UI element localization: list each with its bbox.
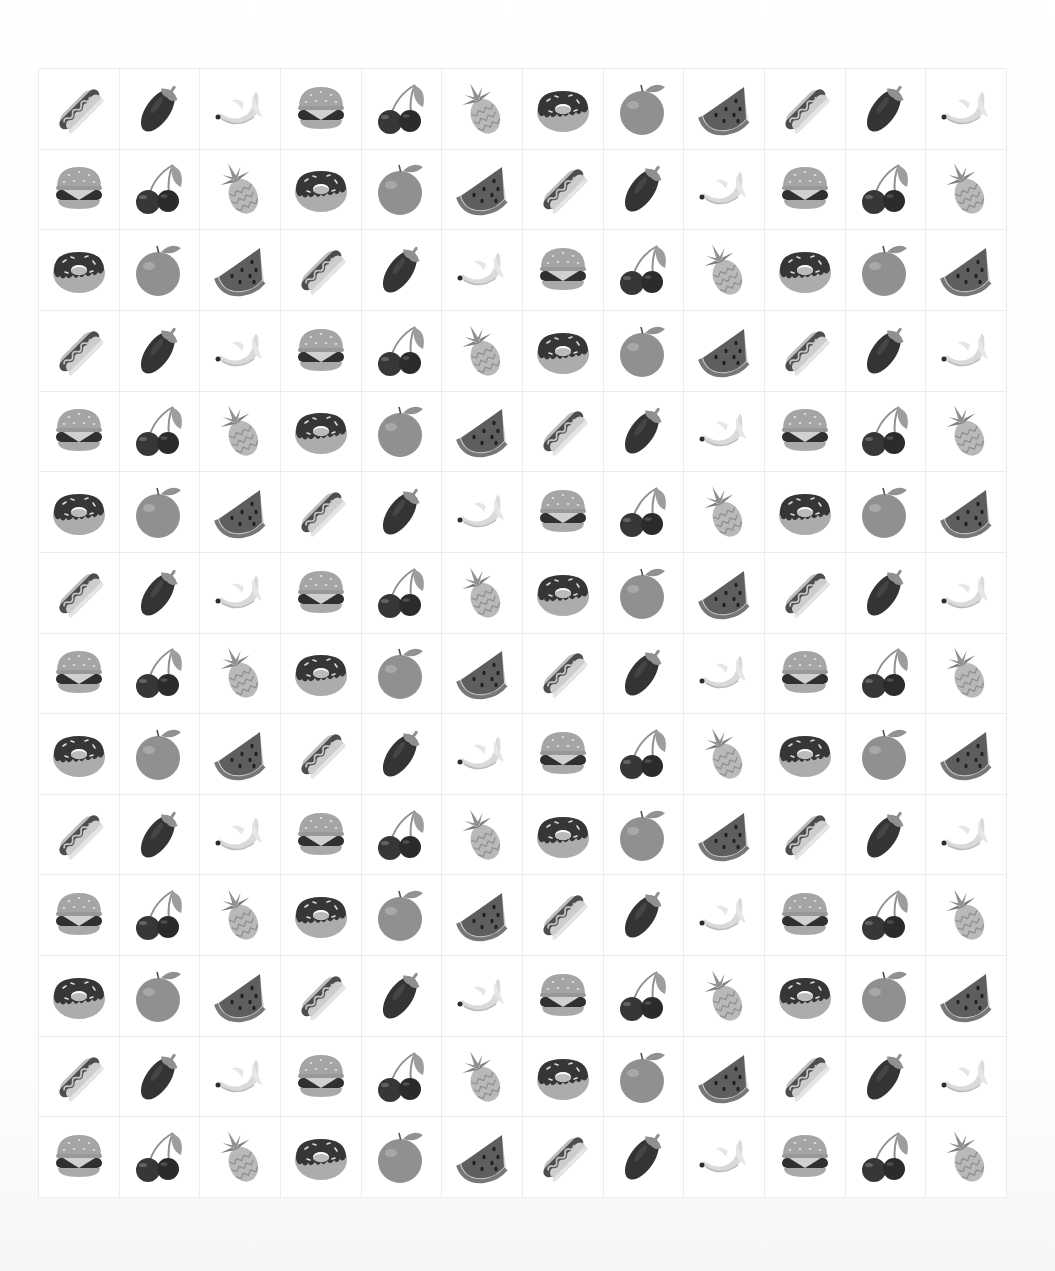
grid-cell[interactable]: burger (523, 472, 604, 553)
grid-cell[interactable]: banana (684, 392, 765, 473)
grid-cell[interactable]: banana (926, 311, 1007, 392)
grid-cell[interactable]: watermelon (442, 150, 523, 231)
grid-cell[interactable]: pineapple (684, 472, 765, 553)
grid-cell[interactable]: eggplant (846, 795, 927, 876)
grid-cell[interactable]: eggplant (604, 150, 685, 231)
grid-cell[interactable]: watermelon (926, 714, 1007, 795)
grid-cell[interactable]: burger (281, 553, 362, 634)
grid-cell[interactable]: banana (684, 634, 765, 715)
grid-cell[interactable]: hotdog (765, 553, 846, 634)
grid-cell[interactable]: pineapple (442, 553, 523, 634)
grid-cell[interactable]: hotdog (765, 311, 846, 392)
grid-cell[interactable]: orange (604, 795, 685, 876)
grid-cell[interactable]: orange (846, 956, 927, 1037)
grid-cell[interactable]: banana (200, 553, 281, 634)
grid-cell[interactable]: orange (120, 472, 201, 553)
grid-cell[interactable]: eggplant (362, 230, 443, 311)
grid-cell[interactable]: watermelon (684, 1037, 765, 1118)
grid-cell[interactable]: watermelon (442, 392, 523, 473)
grid-cell[interactable]: eggplant (846, 311, 927, 392)
grid-cell[interactable]: banana (684, 1117, 765, 1198)
grid-cell[interactable]: orange (362, 875, 443, 956)
grid-cell[interactable]: banana (926, 69, 1007, 150)
grid-cell[interactable]: donut (39, 714, 120, 795)
grid-cell[interactable]: hotdog (281, 230, 362, 311)
grid-cell[interactable]: hotdog (281, 956, 362, 1037)
grid-cell[interactable]: cherries (604, 472, 685, 553)
grid-cell[interactable]: watermelon (442, 1117, 523, 1198)
grid-cell[interactable]: eggplant (604, 392, 685, 473)
grid-cell[interactable]: banana (926, 1037, 1007, 1118)
grid-cell[interactable]: orange (604, 1037, 685, 1118)
grid-cell[interactable]: hotdog (765, 1037, 846, 1118)
grid-cell[interactable]: donut (523, 311, 604, 392)
grid-cell[interactable]: pineapple (926, 1117, 1007, 1198)
grid-cell[interactable]: orange (120, 714, 201, 795)
grid-cell[interactable]: hotdog (523, 875, 604, 956)
grid-cell[interactable]: burger (281, 311, 362, 392)
grid-cell[interactable]: hotdog (523, 634, 604, 715)
grid-cell[interactable]: burger (523, 956, 604, 1037)
grid-cell[interactable]: cherries (120, 392, 201, 473)
grid-cell[interactable]: cherries (120, 150, 201, 231)
grid-cell[interactable]: banana (442, 956, 523, 1037)
grid-cell[interactable]: banana (200, 311, 281, 392)
grid-cell[interactable]: donut (523, 1037, 604, 1118)
grid-cell[interactable]: hotdog (523, 1117, 604, 1198)
grid-cell[interactable]: eggplant (604, 875, 685, 956)
grid-cell[interactable]: pineapple (200, 875, 281, 956)
grid-cell[interactable]: orange (604, 553, 685, 634)
grid-cell[interactable]: orange (604, 69, 685, 150)
grid-cell[interactable]: donut (523, 69, 604, 150)
grid-cell[interactable]: cherries (120, 1117, 201, 1198)
grid-cell[interactable]: donut (39, 230, 120, 311)
grid-cell[interactable]: cherries (362, 795, 443, 876)
grid-cell[interactable]: banana (926, 553, 1007, 634)
grid-cell[interactable]: donut (765, 230, 846, 311)
grid-cell[interactable]: eggplant (120, 69, 201, 150)
grid-cell[interactable]: donut (39, 956, 120, 1037)
grid-cell[interactable]: hotdog (39, 795, 120, 876)
grid-cell[interactable]: eggplant (120, 553, 201, 634)
grid-cell[interactable]: donut (765, 472, 846, 553)
grid-cell[interactable]: pineapple (200, 1117, 281, 1198)
grid-cell[interactable]: eggplant (362, 472, 443, 553)
grid-cell[interactable]: pineapple (926, 392, 1007, 473)
grid-cell[interactable]: pineapple (200, 634, 281, 715)
grid-cell[interactable]: eggplant (604, 634, 685, 715)
grid-cell[interactable]: watermelon (926, 230, 1007, 311)
grid-cell[interactable]: pineapple (684, 230, 765, 311)
grid-cell[interactable]: cherries (846, 150, 927, 231)
grid-cell[interactable]: orange (120, 956, 201, 1037)
grid-cell[interactable]: eggplant (846, 69, 927, 150)
grid-cell[interactable]: hotdog (523, 150, 604, 231)
grid-cell[interactable]: watermelon (442, 875, 523, 956)
grid-cell[interactable]: orange (604, 311, 685, 392)
grid-cell[interactable]: cherries (604, 230, 685, 311)
grid-cell[interactable]: eggplant (120, 1037, 201, 1118)
grid-cell[interactable]: pineapple (442, 1037, 523, 1118)
grid-cell[interactable]: pineapple (442, 69, 523, 150)
grid-cell[interactable]: cherries (604, 714, 685, 795)
grid-cell[interactable]: hotdog (39, 1037, 120, 1118)
grid-cell[interactable]: burger (281, 69, 362, 150)
grid-cell[interactable]: watermelon (200, 472, 281, 553)
grid-cell[interactable]: eggplant (120, 795, 201, 876)
grid-cell[interactable]: hotdog (523, 392, 604, 473)
grid-cell[interactable]: hotdog (765, 69, 846, 150)
grid-cell[interactable]: pineapple (926, 875, 1007, 956)
grid-cell[interactable]: cherries (846, 634, 927, 715)
grid-cell[interactable]: orange (362, 150, 443, 231)
grid-cell[interactable]: orange (362, 392, 443, 473)
grid-cell[interactable]: cherries (362, 69, 443, 150)
grid-cell[interactable]: banana (200, 795, 281, 876)
grid-cell[interactable]: banana (684, 875, 765, 956)
grid-cell[interactable]: orange (846, 472, 927, 553)
grid-cell[interactable]: pineapple (200, 150, 281, 231)
grid-cell[interactable]: cherries (846, 1117, 927, 1198)
grid-cell[interactable]: banana (200, 1037, 281, 1118)
grid-cell[interactable]: cherries (604, 956, 685, 1037)
grid-cell[interactable]: burger (523, 230, 604, 311)
grid-cell[interactable]: watermelon (926, 956, 1007, 1037)
grid-cell[interactable]: hotdog (281, 472, 362, 553)
